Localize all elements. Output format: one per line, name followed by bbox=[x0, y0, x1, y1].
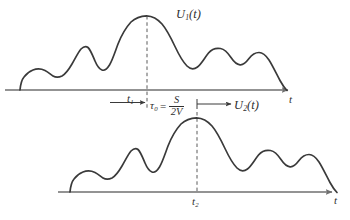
correlation-waveform-figure: U1(t) U2(t) t1 t2 t t τ0 = S 2V bbox=[0, 0, 350, 220]
label-u1-arg: (t) bbox=[189, 7, 201, 21]
label-axis-t-bottom: t bbox=[334, 195, 337, 206]
label-u1-base: U bbox=[176, 7, 185, 21]
label-t2-sub: 2 bbox=[195, 201, 199, 208]
fraction: S 2V bbox=[169, 95, 185, 118]
label-t1-sub: 1 bbox=[130, 98, 134, 105]
tau-sub: 0 bbox=[154, 105, 158, 112]
label-u1: U1(t) bbox=[176, 8, 201, 22]
label-axis-t-top: t bbox=[289, 94, 292, 105]
tau-symbol: τ0 bbox=[150, 100, 158, 113]
label-u2: U2(t) bbox=[234, 99, 259, 113]
label-u2-arg: (t) bbox=[247, 98, 259, 112]
tau-formula: τ0 = S 2V bbox=[150, 95, 184, 118]
equals-sign: = bbox=[159, 101, 167, 112]
fraction-numerator: S bbox=[172, 95, 181, 106]
fraction-denominator: 2V bbox=[169, 107, 185, 118]
label-t1: t1 bbox=[127, 93, 134, 106]
label-u2-base: U bbox=[234, 98, 243, 112]
waveform-u2 bbox=[70, 118, 337, 193]
waveform-u1 bbox=[20, 16, 287, 91]
label-t2: t2 bbox=[192, 196, 199, 209]
